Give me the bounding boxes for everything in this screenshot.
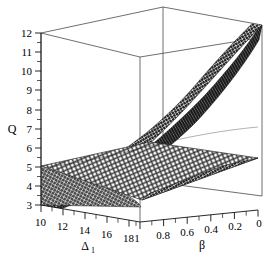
q-tick-9: 9 (27, 84, 33, 96)
q-tick-12: 12 (21, 27, 32, 39)
delta1-axis-title-subscript: 1 (91, 246, 95, 255)
q-axis-ticks (35, 33, 41, 205)
q-tick-3: 3 (27, 199, 33, 211)
beta-tick-0_8: 0.8 (156, 229, 170, 241)
beta-axis: 1 0.8 0.6 0.4 0.2 0 β (134, 210, 262, 252)
beta-axis-title: β (199, 238, 205, 252)
delta1-axis-title-symbol: Δ (81, 239, 89, 253)
delta1-axis-title: Δ 1 (81, 239, 95, 255)
delta1-tick-12: 12 (57, 220, 68, 232)
beta-tick-0_2: 0.2 (228, 220, 242, 232)
q-tick-10: 10 (21, 65, 33, 77)
q-tick-8: 8 (27, 104, 33, 116)
q-tick-7: 7 (27, 123, 33, 135)
q-tick-4: 4 (27, 180, 33, 192)
q-axis-title: Q (8, 122, 17, 136)
delta1-tick-14: 14 (79, 224, 91, 236)
beta-tick-0_6: 0.6 (180, 226, 194, 238)
delta1-tick-16: 16 (101, 228, 113, 240)
delta1-tick-18: 18 (123, 232, 135, 244)
plot-canvas: 12 11 10 9 8 7 6 5 4 3 Q (0, 0, 270, 255)
surface-plot-figure: 12 11 10 9 8 7 6 5 4 3 Q (0, 0, 270, 255)
q-tick-6: 6 (27, 142, 33, 154)
beta-tick-0_4: 0.4 (204, 223, 218, 235)
q-tick-11: 11 (21, 46, 32, 58)
q-axis: 12 11 10 9 8 7 6 5 4 3 Q (8, 27, 41, 211)
beta-tick-0: 0 (256, 217, 262, 229)
delta1-tick-10: 10 (35, 216, 47, 228)
surfaces-group (41, 18, 262, 214)
q-axis-tick-labels: 12 11 10 9 8 7 6 5 4 3 (21, 27, 33, 211)
delta1-axis: 10 12 14 16 18 Δ 1 (35, 205, 140, 255)
beta-tick-1: 1 (134, 232, 140, 244)
q-tick-5: 5 (27, 161, 33, 173)
